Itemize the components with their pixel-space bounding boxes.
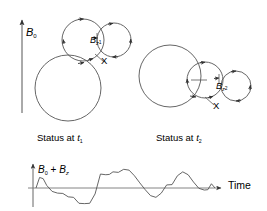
t1-junction-arrow: [78, 63, 84, 64]
t2-large-spin-circle: [139, 45, 201, 107]
t1-medium-rotation-arrow-left: [63, 40, 64, 45]
b0-axis-label: B0: [26, 27, 37, 39]
panel-t1-circles: [35, 19, 131, 121]
t1-x-label: X: [101, 56, 107, 66]
t2-small-rotation-arrow-top: [231, 71, 236, 72]
panel-t2-caption: Status at t2: [156, 133, 202, 144]
waveform-y-axis-label: B0 + Bz: [38, 165, 69, 176]
diagram-canvas: [0, 0, 267, 211]
t2-bz-vector-arrow: [214, 78, 219, 79]
panel-t2-circles: [139, 45, 251, 107]
t1-large-spin-circle: [35, 55, 101, 121]
t1-small-spin-circle: [97, 23, 131, 57]
t2-junction-arrow: [190, 96, 196, 97]
waveform-x-axis-label: Time: [228, 180, 251, 191]
t2-bz-label: Bz2: [216, 82, 228, 92]
t2-x-label: X: [213, 101, 219, 111]
figure-root: B0 Bz1 X Bz2 X Status at t1 Status at t2…: [0, 0, 267, 211]
panel-t1-caption: Status at t1: [37, 133, 83, 144]
t1-bz-label: Bz1: [90, 36, 102, 46]
t2-medium-rotation-arrow-top: [200, 62, 205, 63]
